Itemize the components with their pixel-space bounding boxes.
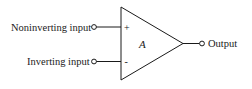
minus-sign: - [125, 56, 128, 67]
plus-sign: + [124, 22, 130, 33]
amplifier-triangle [121, 7, 183, 80]
output-label: Output [208, 38, 237, 49]
inverting-input-label: Inverting input [27, 56, 90, 67]
noninverting-input-label: Noninverting input [11, 22, 91, 33]
op-amp-diagram: Noninverting input + Inverting input - A… [0, 0, 252, 89]
gain-label: A [138, 38, 146, 50]
inverting-input-terminal [92, 59, 97, 64]
output-terminal [200, 41, 205, 46]
noninverting-input-terminal [92, 25, 97, 30]
